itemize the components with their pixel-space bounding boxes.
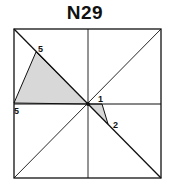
- folding-diagram: 5 5 1 2: [0, 0, 170, 189]
- center-point: [86, 102, 90, 106]
- label-1: 1: [98, 94, 103, 104]
- label-5-left: 5: [14, 106, 19, 116]
- label-2: 2: [113, 120, 118, 130]
- label-5-top: 5: [38, 44, 43, 54]
- shaded-triangle-large: [14, 52, 88, 104]
